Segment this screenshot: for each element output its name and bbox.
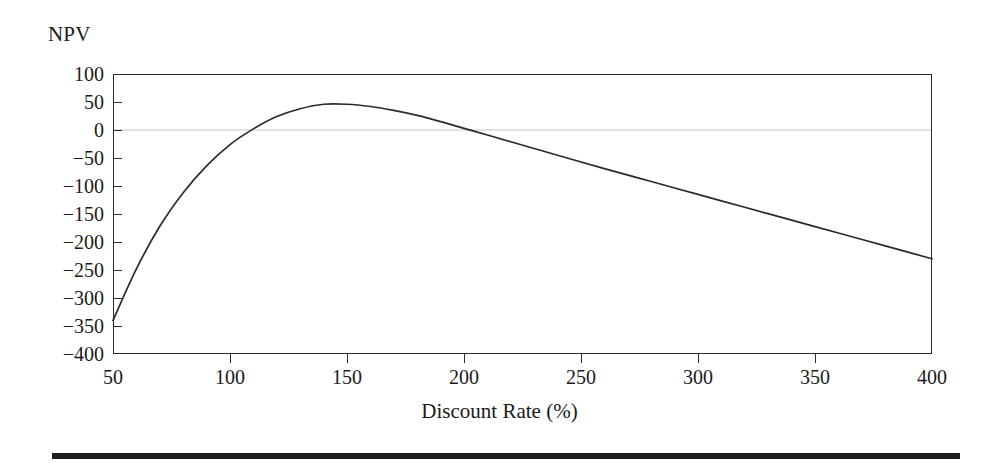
y-tick-label: −50 — [73, 148, 104, 168]
x-tick-label: 150 — [332, 366, 362, 388]
y-tick-label: 50 — [84, 92, 104, 112]
npv-curve-svg — [113, 74, 932, 354]
x-tick-label: 300 — [683, 366, 713, 388]
x-tick-label: 200 — [449, 366, 479, 388]
y-tick-label: −350 — [63, 316, 104, 336]
x-axis-title: Discount Rate (%) — [0, 398, 999, 424]
y-tick-mark — [113, 326, 122, 327]
x-tick-label: 400 — [917, 366, 947, 388]
y-tick-mark — [113, 270, 122, 271]
x-tick-label: 50 — [103, 366, 123, 388]
y-tick-label: 100 — [74, 64, 104, 84]
x-tick-label: 350 — [800, 366, 830, 388]
npv-curve — [113, 104, 932, 321]
y-tick-label: −300 — [63, 288, 104, 308]
y-tick-label: −400 — [63, 344, 104, 364]
y-axis-tick-labels: 100500−50−100−150−200−250−300−350−400 — [0, 74, 104, 354]
y-tick-label: −150 — [63, 204, 104, 224]
y-axis-title: NPV — [48, 22, 91, 46]
y-tick-mark — [113, 298, 122, 299]
y-tick-mark — [113, 102, 122, 103]
y-tick-mark — [113, 214, 122, 215]
y-tick-mark — [113, 186, 122, 187]
y-tick-mark — [113, 130, 122, 131]
y-tick-label: 0 — [94, 120, 104, 140]
x-tick-mark — [347, 354, 348, 363]
x-tick-mark — [815, 354, 816, 363]
y-tick-label: −100 — [63, 176, 104, 196]
npv-sensitivity-chart: NPV 100500−50−100−150−200−250−300−350−40… — [0, 0, 999, 469]
x-tick-mark — [581, 354, 582, 363]
plot-area — [113, 74, 932, 354]
x-tick-label: 250 — [566, 366, 596, 388]
x-tick-mark — [230, 354, 231, 363]
x-tick-mark — [464, 354, 465, 363]
bottom-divider-rule — [52, 453, 960, 459]
x-tick-mark — [698, 354, 699, 363]
y-tick-mark — [113, 242, 122, 243]
y-tick-label: −200 — [63, 232, 104, 252]
y-tick-mark — [113, 158, 122, 159]
y-tick-label: −250 — [63, 260, 104, 280]
x-tick-label: 100 — [215, 366, 245, 388]
